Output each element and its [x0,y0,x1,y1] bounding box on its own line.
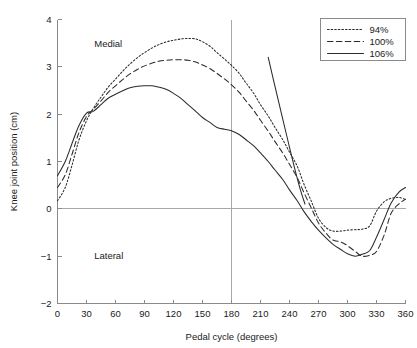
legend-label-106pct: 106% [370,48,395,59]
lateral-label: Lateral [94,250,123,261]
x-tick-label: 270 [311,308,327,319]
y-tick-label: 1 [46,156,51,167]
y-tick-label: 2 [46,109,51,120]
x-tick-label: 180 [224,308,240,319]
x-tick-label: 120 [166,308,182,319]
y-axis-title: Knee joint position (cm) [8,112,19,211]
x-tick-label: 0 [55,308,60,319]
y-tick-label: 0 [46,203,51,214]
knee-joint-position-line-chart: 0306090120150180210240270300330360−2−101… [0,0,417,348]
x-tick-label: 150 [195,308,211,319]
x-tick-label: 300 [340,308,356,319]
x-tick-label: 240 [282,308,298,319]
plot-annotations: MedialLateral [94,38,123,261]
y-tick-label: 4 [46,14,51,25]
x-tick-label: 60 [110,308,121,319]
x-tick-label: 360 [398,308,414,319]
legend-label-94pct: 94% [370,24,390,35]
legend-label-100pct: 100% [370,36,395,47]
x-tick-label: 90 [139,308,150,319]
y-tick-label: −2 [41,298,52,309]
y-tick-label: −1 [41,251,52,262]
x-tick-label: 210 [253,308,269,319]
y-tick-label: 3 [46,61,51,72]
x-axis-title: Pedal cycle (degrees) [186,331,278,342]
chart-container: 0306090120150180210240270300330360−2−101… [0,0,417,348]
legend: 94%100%106% [321,19,406,61]
x-tick-label: 30 [81,308,92,319]
medial-label: Medial [94,38,122,49]
x-tick-label: 330 [369,308,385,319]
